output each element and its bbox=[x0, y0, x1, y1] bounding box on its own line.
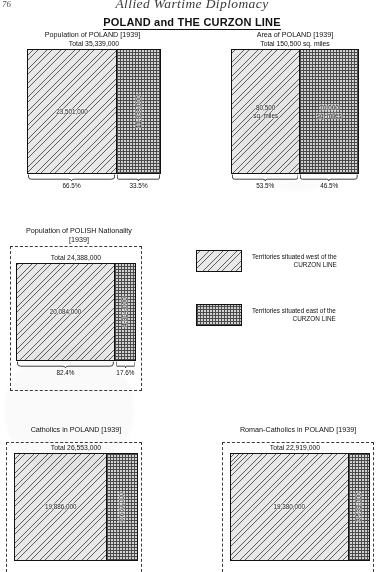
legend-label-east: Territories situated east of the CURZON … bbox=[252, 307, 336, 323]
legend: Territories situated west of the CURZON … bbox=[196, 250, 382, 340]
chart-title-line-1: Population of POLISH Nationality bbox=[22, 226, 136, 235]
legend-swatch-east-icon bbox=[196, 304, 242, 326]
bar-segment-west: 80,500 sq. miles bbox=[232, 50, 299, 173]
legend-label-west: Territories situated west of the CURZON … bbox=[252, 253, 337, 269]
legend-swatch-west-icon bbox=[196, 250, 242, 272]
bar-segment-east: 70,000 sq. miles bbox=[299, 50, 358, 173]
brace-icon bbox=[17, 361, 114, 368]
figure-title: POLAND and THE CURZON LINE bbox=[0, 16, 384, 28]
chart-total: Total 24,388,000 bbox=[16, 253, 136, 262]
chart-total: Total 22,919,000 bbox=[206, 443, 384, 452]
chart-total: Total 26,553,000 bbox=[14, 443, 138, 452]
brace-icon bbox=[28, 174, 115, 181]
legend-label-east-line-2: CURZON LINE bbox=[252, 315, 336, 323]
bar-value-label-west: 23,501,000 bbox=[56, 108, 88, 116]
bar-segment-west: 20,084,000 bbox=[17, 264, 114, 360]
chart-title: Catholics in POLAND [1939] bbox=[14, 425, 138, 434]
bar-segment-east: 11,838,000 bbox=[116, 50, 160, 173]
bar-group: 19,886,000 6,667,000 bbox=[14, 453, 138, 561]
legend-item-west: Territories situated west of the CURZON … bbox=[196, 250, 337, 272]
bar-value-label-west: 19,380,000 bbox=[274, 503, 306, 511]
chart-title: Population of POLAND [1939] bbox=[24, 30, 161, 39]
bar-value-label-east: 4,304,000 bbox=[121, 297, 129, 327]
percent-west: 53.5% bbox=[231, 174, 299, 189]
chart-title: Roman-Catholics in POLAND [1939] bbox=[212, 425, 384, 434]
percent-label-west: 82.4% bbox=[56, 369, 74, 376]
chart-title-line-2: [1939] bbox=[22, 235, 136, 244]
bar-value-line-1: 80,500 bbox=[256, 104, 275, 111]
percent-label-west: 53.5% bbox=[256, 182, 274, 189]
bar-group: 20,084,000 4,304,000 bbox=[16, 263, 136, 361]
chart-area-of-poland: Area of POLAND [1939] Total 150,500 sq. … bbox=[231, 30, 359, 189]
bar-segment-east: 3,539,000 bbox=[348, 454, 369, 560]
bar-value-label-east: 11,838,000 bbox=[135, 95, 143, 128]
chart-population-polish-nationality: Population of POLISH Nationality [1939] … bbox=[16, 226, 136, 376]
percent-row: 66.5% 33.5% bbox=[27, 174, 161, 189]
brace-icon bbox=[232, 174, 298, 181]
percent-east: 17.6% bbox=[115, 361, 136, 376]
bar-value-line-2: sq. miles bbox=[253, 112, 278, 119]
bar-group: 19,380,000 3,539,000 bbox=[230, 453, 370, 561]
chart-population-of-poland: Population of POLAND [1939] Total 35,339… bbox=[27, 30, 161, 189]
bar-group: 80,500 sq. miles 70,000 sq. miles bbox=[231, 49, 359, 174]
brace-icon bbox=[300, 174, 358, 181]
bar-value-label-east: 70,000 sq. miles bbox=[317, 104, 342, 119]
chart-total: Total 35,339,000 bbox=[27, 39, 161, 48]
bar-segment-west: 23,501,000 bbox=[28, 50, 116, 173]
bar-value-label-west: 20,084,000 bbox=[50, 308, 82, 316]
bar-segment-east: 4,304,000 bbox=[114, 264, 135, 360]
chart-roman-catholics-in-poland: Roman-Catholics in POLAND [1939] Total 2… bbox=[212, 425, 384, 561]
legend-label-west-line-1: Territories situated west of the bbox=[252, 253, 337, 260]
percent-east: 46.5% bbox=[299, 174, 359, 189]
chart-catholics-in-poland: Catholics in POLAND [1939] Total 26,553,… bbox=[14, 425, 138, 561]
brace-icon bbox=[117, 174, 160, 181]
legend-label-west-line-2: CURZON LINE bbox=[252, 261, 337, 269]
percent-row: 82.4% 17.6% bbox=[16, 361, 136, 376]
percent-label-east: 17.6% bbox=[116, 369, 134, 376]
bar-value-label-east: 3,539,000 bbox=[355, 492, 363, 522]
bar-segment-east: 6,667,000 bbox=[106, 454, 137, 560]
percent-west: 82.4% bbox=[16, 361, 115, 376]
bar-segment-west: 19,886,000 bbox=[15, 454, 106, 560]
percent-label-east: 33.5% bbox=[129, 182, 147, 189]
legend-label-east-line-1: Territories situated east of the bbox=[252, 307, 336, 314]
legend-item-east: Territories situated east of the CURZON … bbox=[196, 304, 336, 326]
bar-value-line-1: 70,000 bbox=[320, 104, 339, 111]
bar-value-label-west: 80,500 sq. miles bbox=[253, 104, 278, 119]
percent-label-west: 66.5% bbox=[62, 182, 80, 189]
running-head: 76 Allied Wartime Diplomacy bbox=[0, 0, 384, 14]
bar-value-label-east: 6,667,000 bbox=[118, 492, 126, 522]
bar-value-line-2: sq. miles bbox=[317, 112, 342, 119]
book-title: Allied Wartime Diplomacy bbox=[0, 0, 384, 12]
chart-total: Total 150,500 sq. miles bbox=[231, 39, 359, 48]
bar-group: 23,501,000 11,838,000 bbox=[27, 49, 161, 174]
chart-title: Area of POLAND [1939] bbox=[231, 30, 359, 39]
bar-segment-west: 19,380,000 bbox=[231, 454, 348, 560]
brace-icon bbox=[116, 361, 135, 368]
percent-east: 33.5% bbox=[116, 174, 161, 189]
percent-row: 53.5% 46.5% bbox=[231, 174, 359, 189]
bar-value-label-west: 19,886,000 bbox=[45, 503, 77, 511]
percent-label-east: 46.5% bbox=[320, 182, 338, 189]
percent-west: 66.5% bbox=[27, 174, 116, 189]
figure-title-text: POLAND and THE CURZON LINE bbox=[103, 16, 281, 30]
